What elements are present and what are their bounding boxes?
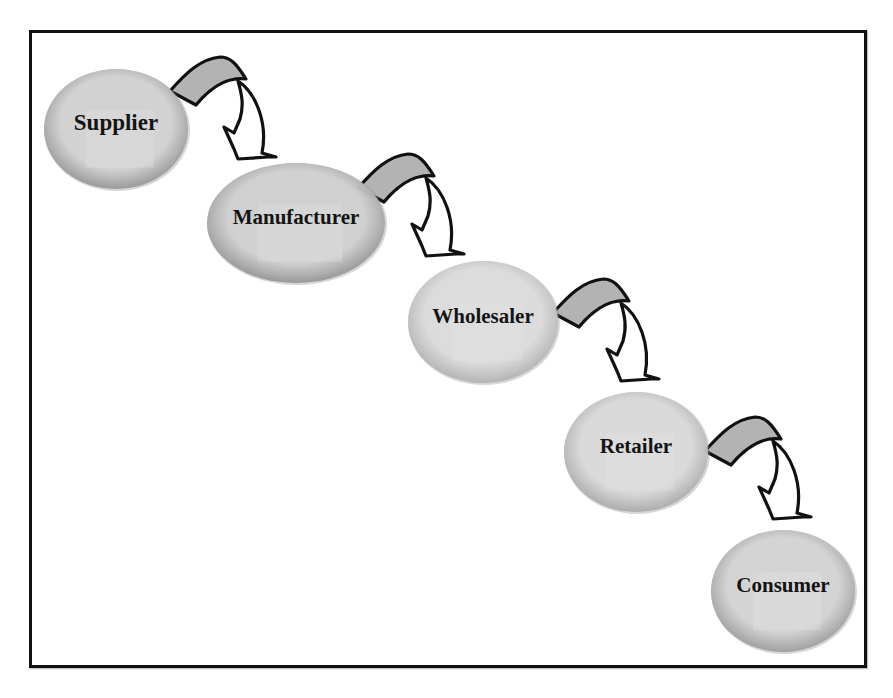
node-wholesaler: Wholesaler [408,261,560,385]
supply-chain-diagram: SupplierManufacturerWholesalerRetailerCo… [0,0,893,698]
node-label-retailer: Retailer [600,434,672,458]
arrow-head [759,441,811,519]
node-consumer: Consumer [711,530,857,654]
flow-arrow-retailer-to-consumer [705,417,811,519]
flow-arrow-wholesaler-to-retailer [553,279,659,381]
node-supplier: Supplier [44,69,190,191]
node-label-manufacturer: Manufacturer [233,205,360,229]
node-manufacturer: Manufacturer [207,163,387,285]
diagram-canvas: SupplierManufacturerWholesalerRetailerCo… [0,0,893,698]
node-label-wholesaler: Wholesaler [432,304,533,328]
arrow-head [607,303,659,381]
node-retailer: Retailer [564,392,710,514]
nodes-layer: SupplierManufacturerWholesalerRetailerCo… [44,69,857,654]
node-label-consumer: Consumer [736,573,829,597]
arrow-band [170,57,246,105]
node-label-supplier: Supplier [74,110,158,135]
arrow-head [412,178,464,256]
arrow-band [705,417,781,465]
arrow-band [553,279,629,327]
arrow-head [224,81,276,159]
